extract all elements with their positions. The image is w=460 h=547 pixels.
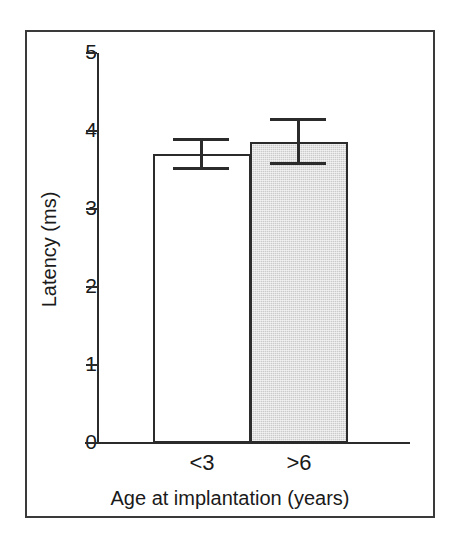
bar-category-0[interactable]	[153, 154, 251, 443]
error-bar-cap-upper-0	[173, 138, 229, 141]
y-tick-mark-2	[86, 286, 97, 288]
y-axis-line	[97, 53, 99, 444]
bar-chart-plot-area: 0 1 2 3 4 5 Latency (ms)	[0, 0, 460, 547]
y-tick-mark-1	[86, 364, 97, 366]
error-bar-cap-lower-1	[270, 162, 326, 165]
x-tick-label-1: >6	[244, 452, 354, 474]
y-tick-mark-5	[86, 52, 97, 54]
x-tick-label-0: <3	[147, 452, 257, 474]
y-tick-mark-0	[86, 442, 97, 444]
x-axis-title: Age at implantation (years)	[55, 487, 405, 510]
y-axis-title: Latency (ms)	[38, 160, 61, 340]
error-bar-cap-lower-0	[173, 167, 229, 170]
bar-category-1[interactable]	[250, 142, 348, 443]
error-bar-cap-upper-1	[270, 118, 326, 121]
y-tick-mark-4	[86, 130, 97, 132]
error-bar-stem-0	[200, 139, 203, 169]
figure-container: 0 1 2 3 4 5 Latency (ms)	[0, 0, 460, 547]
error-bar-stem-1	[297, 119, 300, 164]
y-tick-mark-3	[86, 208, 97, 210]
